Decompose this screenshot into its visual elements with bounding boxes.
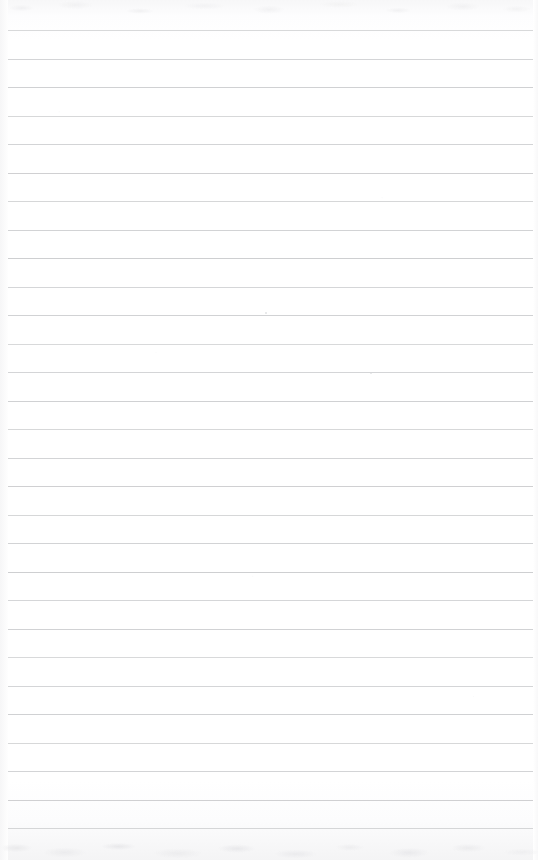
notebook-page bbox=[0, 0, 538, 860]
writing-area[interactable] bbox=[8, 16, 533, 844]
